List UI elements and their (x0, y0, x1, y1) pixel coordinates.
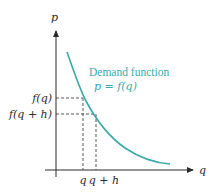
fqh-label: f(q + h) (8, 108, 52, 121)
demand-function-diagram: p q f(q) f(q + h) q q + h Demand functio… (0, 0, 211, 196)
curve-equation-label: p = f(q) (94, 80, 137, 93)
x-axis-label: q (199, 164, 206, 177)
qh-label: q + h (89, 174, 119, 187)
demand-function-title: Demand function (89, 66, 169, 78)
q-label: q (79, 174, 86, 187)
fq-label: f(q) (31, 92, 52, 105)
y-axis-label: p (51, 11, 58, 24)
